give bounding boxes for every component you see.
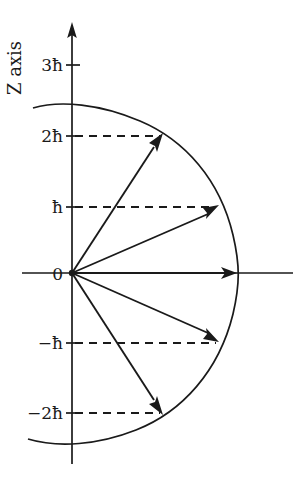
- vector-m-plus-2-shaft: [72, 147, 154, 273]
- tick-label-neg-hbar: −ħ: [38, 333, 63, 353]
- vector-model-diagram: Z axis 3ħ 2ħ ħ 0 −ħ −2ħ: [0, 0, 307, 489]
- z-axis: [67, 22, 77, 464]
- z-axis-title: Z axis: [4, 41, 25, 95]
- angular-momentum-vectors: [69, 133, 237, 415]
- z-axis-tick-marks: [66, 65, 80, 413]
- vector-m-zero: [72, 267, 237, 279]
- vector-m-minus-1-arrowhead: [203, 328, 219, 342]
- vector-m-plus-2: [72, 133, 163, 273]
- vector-m-minus-2: [72, 273, 163, 415]
- tick-label-2hbar: 2ħ: [41, 126, 63, 146]
- figure-canvas: Z axis 3ħ 2ħ ħ 0 −ħ −2ħ: [0, 0, 307, 489]
- tick-label-3hbar: 3ħ: [41, 55, 63, 75]
- vector-m-plus-1-shaft: [72, 214, 208, 273]
- projection-dashed-lines: [75, 136, 216, 413]
- tick-label-origin: 0: [52, 264, 63, 284]
- tick-label-hbar: ħ: [52, 197, 63, 217]
- tick-label-neg-2hbar: −2ħ: [27, 403, 63, 423]
- origin-point: [69, 270, 75, 276]
